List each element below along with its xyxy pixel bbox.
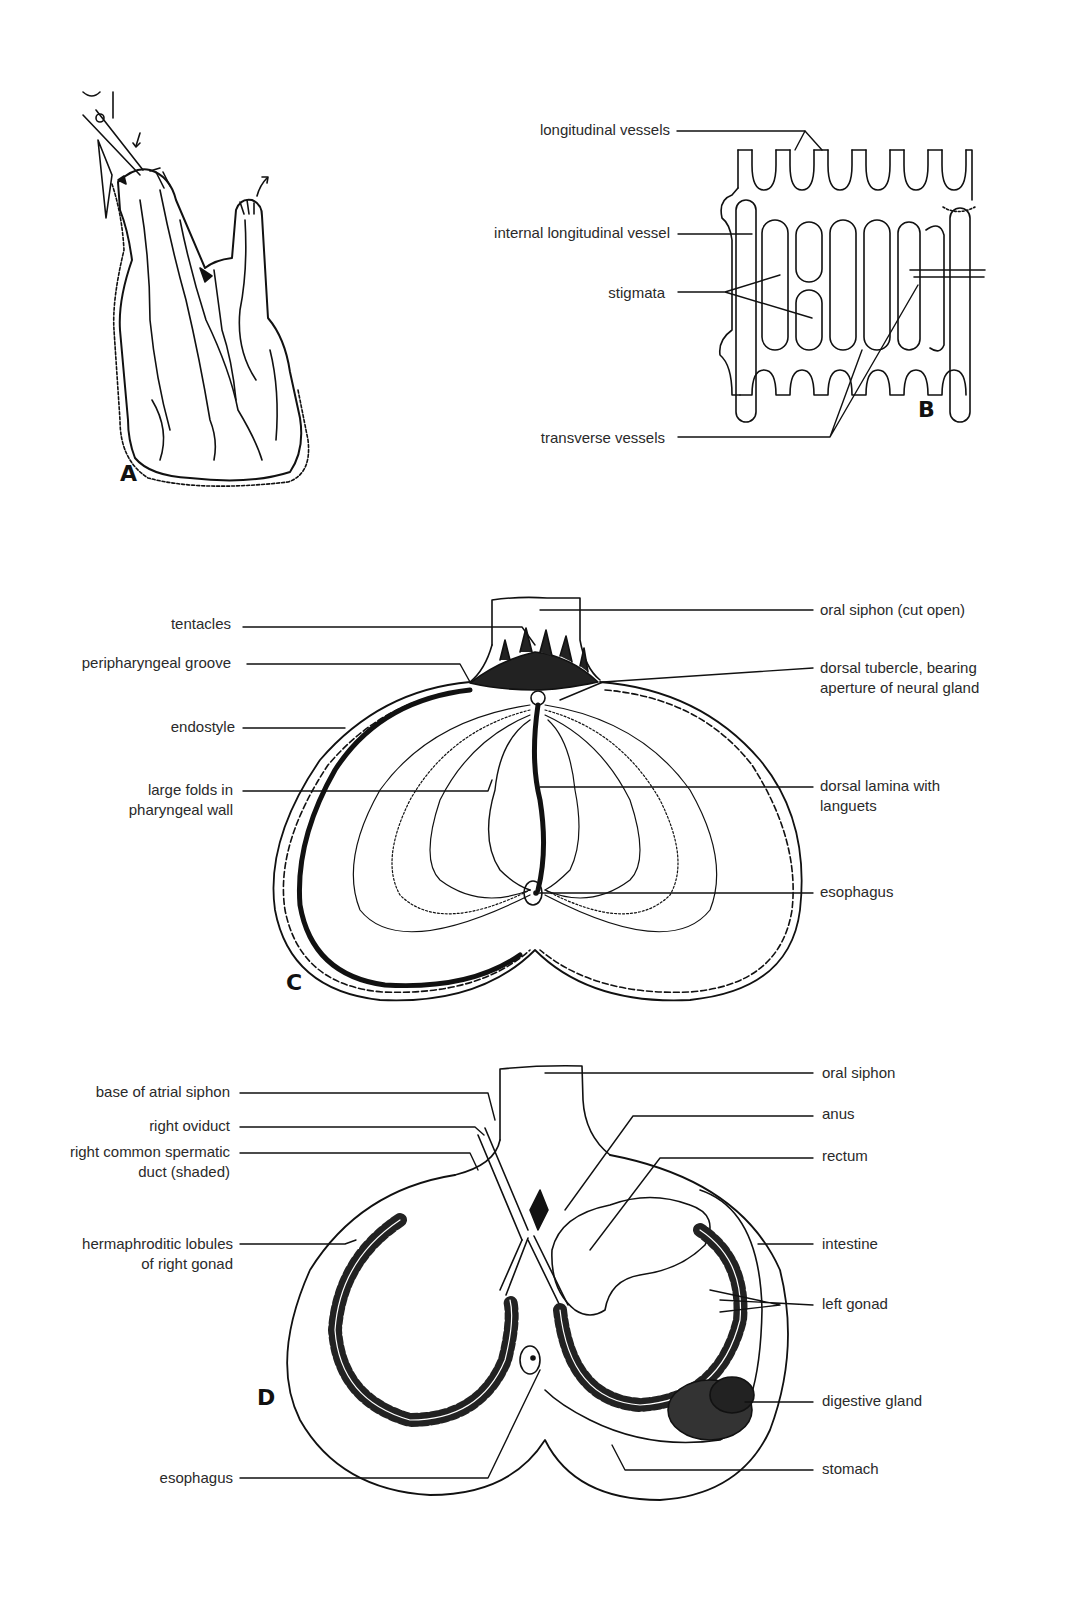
label-internal-longitudinal-vessel: internal longitudinal vessel [494,223,670,243]
label-esophagus-c: esophagus [820,882,893,902]
label-oral-siphon-cut-open: oral siphon (cut open) [820,600,965,620]
label-dorsal-lamina-line1: dorsal lamina with [820,776,940,796]
label-right-common-spermatic-line1: right common spermatic [70,1142,230,1162]
panel-c-pharynx-drawing [273,597,801,1000]
label-tentacles: tentacles [171,614,231,634]
label-dorsal-lamina-line2: languets [820,796,877,816]
panel-letter-a: A [120,461,137,486]
label-endostyle: endostyle [171,717,235,737]
panel-a-specimen-drawing [83,92,309,486]
label-hermaphroditic-lobules-line1: hermaphroditic lobules [82,1234,233,1254]
label-intestine: intestine [822,1234,878,1254]
label-large-folds-line2: pharyngeal wall [129,800,233,820]
label-longitudinal-vessels: longitudinal vessels [540,120,670,140]
panel-b-branchial-wall-drawing [720,150,985,422]
label-dorsal-tubercle-line1: dorsal tubercle, bearing [820,658,977,678]
label-peripharyngeal-groove: peripharyngeal groove [82,653,231,673]
label-large-folds-line1: large folds in [148,780,233,800]
label-dorsal-tubercle-line2: aperture of neural gland [820,678,979,698]
label-oral-siphon: oral siphon [822,1063,895,1083]
label-esophagus-d: esophagus [160,1468,233,1488]
panel-letter-b: B [918,397,935,422]
label-right-oviduct: right oviduct [149,1116,230,1136]
label-transverse-vessels: transverse vessels [541,428,665,448]
panel-letter-c: C [286,970,302,995]
label-digestive-gland: digestive gland [822,1391,922,1411]
panel-d-viscera-drawing [287,1066,788,1500]
label-right-common-spermatic-line2: duct (shaded) [138,1162,230,1182]
panel-letter-d: D [257,1385,275,1410]
label-anus: anus [822,1104,855,1124]
label-rectum: rectum [822,1146,868,1166]
label-hermaphroditic-lobules-line2: of right gonad [141,1254,233,1274]
scissors-icon [83,92,143,218]
label-stigmata: stigmata [608,283,665,303]
label-left-gonad: left gonad [822,1294,888,1314]
label-base-of-atrial-siphon: base of atrial siphon [96,1082,230,1102]
label-stomach: stomach [822,1459,879,1479]
